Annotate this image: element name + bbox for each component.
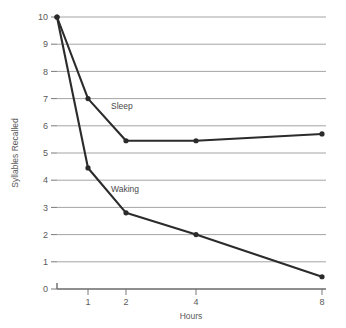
data-point-sleep [319,131,324,136]
y-axis-tick-mark-group [51,17,57,289]
y-axis-tick-label: 6 [43,121,48,131]
y-axis-tick-label: 3 [43,203,48,213]
data-point-waking [54,14,59,19]
data-point-sleep [123,138,128,143]
y-axis-title: Syllables Recalled [10,118,20,188]
data-point-waking [123,210,128,215]
forgetting-curve-chart: 012345678910 1248 SleepWaking Hours Syll… [0,0,346,328]
data-point-waking [85,165,90,170]
y-axis-tick-label: 2 [43,230,48,240]
gridline-group [57,17,326,262]
y-axis-tick-label: 1 [43,257,48,267]
series-label-waking: Waking [111,184,139,194]
x-axis-group [57,283,326,289]
data-point-sleep [85,96,90,101]
y-axis-tick-label: 8 [43,67,48,77]
data-series-group [54,14,324,279]
y-axis-tick-label: 9 [43,39,48,49]
x-axis-tick-label: 4 [193,297,198,307]
y-axis-tick-label: 10 [38,12,48,22]
series-line-sleep [57,17,322,141]
x-axis-tick-label-group: 1248 [85,297,324,307]
chart-canvas: 012345678910 1248 SleepWaking Hours Syll… [0,0,346,328]
y-axis-tick-label: 4 [43,175,48,185]
x-axis-tick-mark-group [88,289,322,295]
y-axis-tick-label: 0 [43,284,48,294]
y-axis-tick-label-group: 012345678910 [38,12,48,294]
data-point-waking [319,274,324,279]
data-point-waking [193,232,198,237]
x-axis-tick-label: 8 [319,297,324,307]
y-axis-tick-label: 7 [43,94,48,104]
data-point-sleep [193,138,198,143]
x-axis-title: Hours [180,311,203,321]
x-axis-tick-label: 2 [123,297,128,307]
series-label-sleep: Sleep [111,101,133,111]
x-axis-tick-label: 1 [85,297,90,307]
y-axis-tick-label: 5 [43,148,48,158]
series-line-waking [57,17,322,277]
